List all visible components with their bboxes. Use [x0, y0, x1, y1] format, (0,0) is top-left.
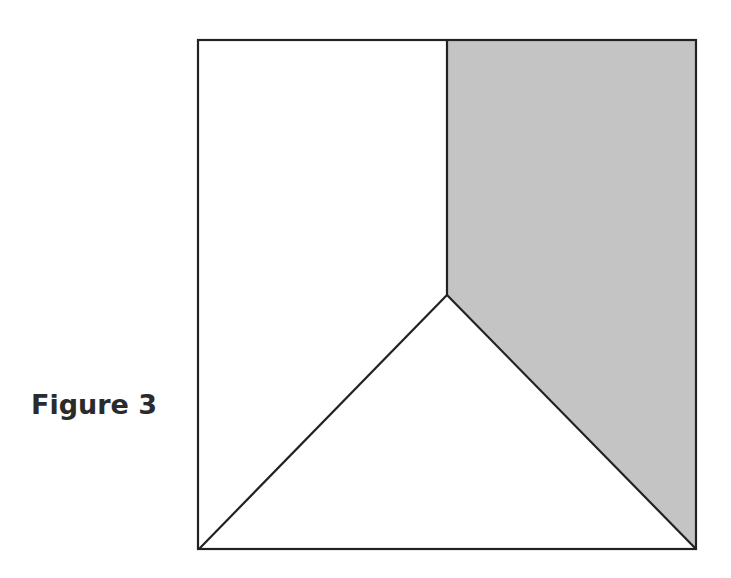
geometry-diagram — [0, 0, 731, 578]
